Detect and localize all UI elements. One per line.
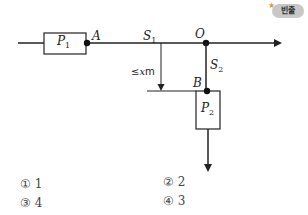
choice-1[interactable]: ① 1 — [20, 177, 42, 191]
down-arrow-icon — [158, 84, 165, 91]
s2-label: S2 — [210, 58, 223, 72]
point-o-label: O — [195, 27, 205, 41]
frequency-badge: 빈출 — [272, 4, 304, 18]
choice-2[interactable]: ② 2 — [163, 175, 185, 189]
choice-3[interactable]: ③ 4 — [20, 196, 42, 210]
point-a-label: A — [92, 29, 101, 43]
p1-label: P1 — [57, 34, 70, 48]
down-arrow-icon — [204, 164, 212, 172]
choice-4[interactable]: ④ 3 — [163, 194, 185, 208]
s1-label: S1 — [143, 29, 156, 43]
point-b-label: B — [193, 76, 202, 90]
dimension-label: ≤xm — [131, 66, 155, 77]
point-a-dot — [84, 40, 90, 46]
right-arrow-icon — [274, 39, 282, 47]
point-b-dot — [204, 88, 210, 94]
p2-label: P2 — [201, 101, 214, 115]
